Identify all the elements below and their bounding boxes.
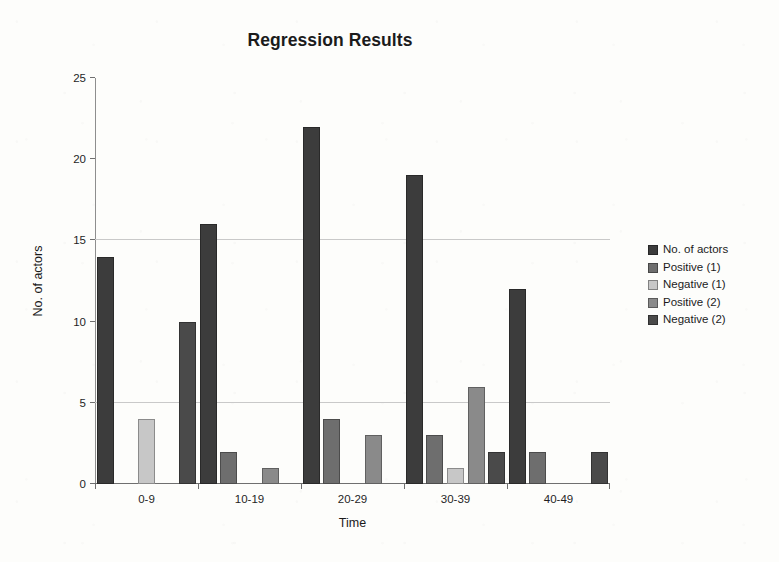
bar-slot [177, 78, 198, 484]
bar-group-30-39: 30-39 [404, 78, 507, 484]
bars-row [95, 78, 198, 484]
bar-slot [589, 78, 610, 484]
bar-group-40-49: 40-49 [507, 78, 610, 484]
bar-negative-2-0-9 [179, 322, 196, 484]
bar-no-of-actors-20-29 [303, 127, 320, 484]
bar-slot [301, 78, 322, 484]
bar-positive-2-20-29 [365, 435, 382, 484]
bars-row [198, 78, 301, 484]
bar-slot [383, 78, 404, 484]
bar-slot [342, 78, 363, 484]
x-tick-mark [301, 484, 302, 489]
y-tick-label-0: 0 [80, 478, 86, 490]
bar-no-of-actors-40-49 [509, 289, 526, 484]
bar-positive-1-40-49 [529, 452, 546, 484]
x-tick-label-40-49: 40-49 [544, 493, 573, 505]
bar-slot [569, 78, 590, 484]
bar-slot [466, 78, 487, 484]
bar-slot [198, 78, 219, 484]
bar-group-10-19: 10-19 [198, 78, 301, 484]
bar-slot [219, 78, 240, 484]
bar-positive-2-30-39 [468, 387, 485, 484]
x-tick-mark-end [609, 484, 610, 489]
legend-item-positive-2[interactable]: Positive (2) [648, 296, 776, 310]
bar-slot [425, 78, 446, 484]
legend-item-negative-2[interactable]: Negative (2) [648, 313, 776, 327]
bars-row [301, 78, 404, 484]
x-tick-mark [95, 484, 96, 489]
legend-label: No. of actors [663, 244, 728, 256]
bar-positive-1-30-39 [426, 435, 443, 484]
y-tick-label-10: 10 [73, 316, 86, 328]
bar-no-of-actors-30-39 [406, 175, 423, 484]
bar-positive-1-10-19 [220, 452, 237, 484]
legend-swatch-icon [648, 298, 658, 308]
chart-legend: No. of actorsPositive (1)Negative (1)Pos… [648, 243, 776, 331]
x-tick-label-20-29: 20-29 [338, 493, 367, 505]
legend-swatch-icon [648, 280, 658, 290]
bar-slot [322, 78, 343, 484]
y-tick-label-25: 25 [73, 72, 86, 84]
legend-label: Positive (2) [663, 297, 721, 309]
bar-slot [116, 78, 137, 484]
bar-slot [280, 78, 301, 484]
legend-item-no-of-actors[interactable]: No. of actors [648, 243, 776, 257]
y-axis-title: No. of actors [31, 246, 45, 317]
bar-no-of-actors-10-19 [200, 224, 217, 484]
bar-positive-1-20-29 [323, 419, 340, 484]
bar-slot [548, 78, 569, 484]
bar-slot [445, 78, 466, 484]
bar-slot [363, 78, 384, 484]
bar-negative-1-30-39 [447, 468, 464, 484]
bar-slot [260, 78, 281, 484]
bar-slot [157, 78, 178, 484]
legend-swatch-icon [648, 263, 658, 273]
legend-label: Negative (1) [663, 279, 726, 291]
bar-slot [95, 78, 116, 484]
legend-item-negative-1[interactable]: Negative (1) [648, 278, 776, 292]
x-tick-mark [507, 484, 508, 489]
bar-slot [528, 78, 549, 484]
y-tick-label-15: 15 [73, 234, 86, 246]
x-tick-label-10-19: 10-19 [235, 493, 264, 505]
bar-slot [404, 78, 425, 484]
bar-group-20-29: 20-29 [301, 78, 404, 484]
bar-group-0-9: 0-9 [95, 78, 198, 484]
x-axis-title: Time [95, 516, 610, 530]
bar-slot [507, 78, 528, 484]
legend-item-positive-1[interactable]: Positive (1) [648, 261, 776, 275]
bar-negative-2-30-39 [488, 452, 505, 484]
bars-row [404, 78, 507, 484]
x-tick-mark [404, 484, 405, 489]
bar-negative-1-0-9 [138, 419, 155, 484]
bar-negative-2-40-49 [591, 452, 608, 484]
x-tick-mark [198, 484, 199, 489]
legend-label: Positive (1) [663, 262, 721, 274]
bar-slot [136, 78, 157, 484]
bar-no-of-actors-0-9 [97, 257, 114, 484]
chart-title: Regression Results [0, 30, 660, 51]
plot-area: 0510152025 0-910-1920-2930-3940-49 Time [95, 78, 610, 484]
bar-slot [239, 78, 260, 484]
bars-row [507, 78, 610, 484]
bar-slot [486, 78, 507, 484]
y-tick-label-5: 5 [80, 397, 86, 409]
x-tick-label-30-39: 30-39 [441, 493, 470, 505]
legend-swatch-icon [648, 315, 658, 325]
bar-positive-2-10-19 [262, 468, 279, 484]
x-tick-label-0-9: 0-9 [138, 493, 155, 505]
legend-swatch-icon [648, 245, 658, 255]
y-tick-label-20: 20 [73, 153, 86, 165]
legend-label: Negative (2) [663, 314, 726, 326]
